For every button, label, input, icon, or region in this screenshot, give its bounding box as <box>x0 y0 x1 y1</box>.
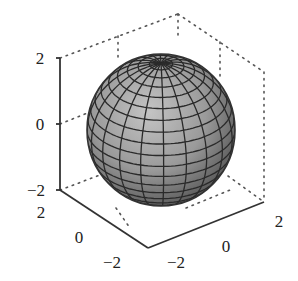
y-tick-2: 2 <box>37 203 46 222</box>
sphere-surface <box>87 54 235 206</box>
y-tick-neg2: −2 <box>103 253 121 272</box>
z-tick-neg2: −2 <box>27 181 45 200</box>
x-tick-2: 2 <box>275 212 284 231</box>
y-tick-0: 0 <box>75 228 84 247</box>
x-tick-neg2: −2 <box>167 253 185 272</box>
x-tick-0: 0 <box>222 237 231 256</box>
x-tick-labels: −2 0 2 <box>167 212 283 272</box>
y-tick-labels: 2 0 −2 <box>37 203 121 272</box>
z-tick-2: 2 <box>36 49 45 68</box>
z-tick-labels: 2 0 −2 <box>27 49 45 200</box>
sphere-3d-plot: 2 0 −2 2 0 −2 −2 0 2 <box>0 0 298 281</box>
x-axis <box>148 202 264 248</box>
z-tick-0: 0 <box>36 115 45 134</box>
